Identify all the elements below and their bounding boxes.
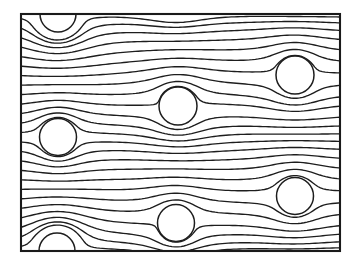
circle-top-left bbox=[40, 0, 76, 32]
circle-top-right bbox=[276, 56, 314, 94]
circle-lower-right bbox=[277, 178, 314, 215]
circle-center bbox=[159, 87, 197, 125]
circle-mid-left bbox=[40, 119, 77, 156]
streamline bbox=[21, 155, 341, 167]
streamline bbox=[21, 162, 341, 173]
circle-lower-center bbox=[158, 205, 195, 242]
streamline-flow-diagram bbox=[0, 0, 351, 269]
figure-root bbox=[0, 0, 351, 269]
